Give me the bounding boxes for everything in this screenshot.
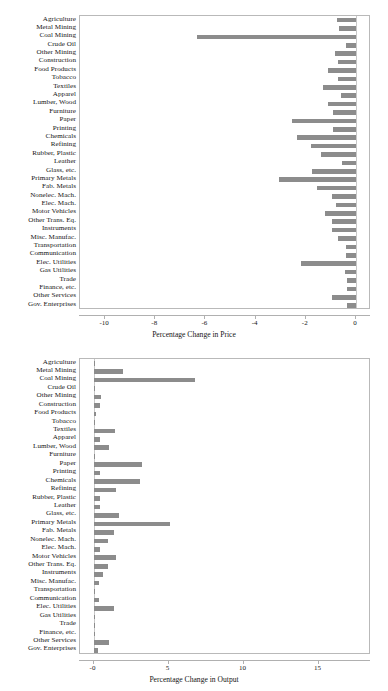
category-label: Primary Metals: [0, 174, 76, 182]
category-label: Other Trans. Eq.: [0, 216, 76, 224]
category-label: Finance, etc.: [0, 628, 76, 636]
category-label: Glass, etc.: [0, 166, 76, 174]
category-label: Coal Mining: [0, 31, 76, 39]
bar: [94, 412, 96, 417]
category-label: Rubber, Plastic: [0, 149, 76, 157]
bar: [338, 60, 356, 65]
category-label: Construction: [0, 56, 76, 64]
category-label: Other Mining: [0, 48, 76, 56]
category-label: Refining: [0, 484, 76, 492]
bar: [292, 119, 356, 124]
category-label: Gov. Enterprises: [0, 644, 76, 652]
category-label: Gas Utilities: [0, 266, 76, 274]
bar: [94, 530, 114, 535]
category-label: Elec. Utilities: [0, 602, 76, 610]
bar: [333, 110, 356, 115]
category-label: Trade: [0, 275, 76, 283]
bar: [94, 395, 102, 400]
category-label: Paper: [0, 115, 76, 123]
category-label: Instruments: [0, 224, 76, 232]
category-label: Other Services: [0, 636, 76, 644]
category-label: Transportation: [0, 241, 76, 249]
bar: [279, 177, 356, 182]
category-label: Food Products: [0, 65, 76, 73]
category-label: Printing: [0, 467, 76, 475]
category-label: Lumber, Wood: [0, 442, 76, 450]
bar: [332, 194, 356, 199]
bar: [94, 445, 109, 450]
bar: [336, 203, 356, 208]
bar: [94, 496, 101, 501]
price-plot-area: [79, 15, 370, 309]
bar: [94, 547, 101, 552]
bar: [94, 555, 117, 560]
category-label: Finance, etc.: [0, 283, 76, 291]
bar: [338, 236, 356, 241]
bar: [332, 228, 356, 233]
category-label: Furniture: [0, 107, 76, 115]
bar: [94, 632, 96, 637]
category-label: Motor Vehicles: [0, 552, 76, 560]
bar: [94, 598, 99, 603]
x-tick-label: 5: [153, 665, 183, 672]
bar: [328, 68, 356, 73]
x-tick-label: 15: [303, 665, 333, 672]
category-label: Construction: [0, 400, 76, 408]
bar: [94, 615, 95, 620]
bar: [339, 26, 356, 31]
bar: [338, 77, 356, 82]
bar: [94, 479, 141, 484]
x-tick-label: -8: [139, 320, 169, 327]
output-plot-area: [79, 358, 370, 654]
category-label: Crude Oil: [0, 383, 76, 391]
category-label: Nonelec. Mach.: [0, 535, 76, 543]
category-label: Leather: [0, 501, 76, 509]
category-label: Metal Mining: [0, 366, 76, 374]
category-label: Trade: [0, 619, 76, 627]
bar: [94, 623, 95, 628]
category-label: Primary Metals: [0, 518, 76, 526]
bar: [347, 303, 356, 308]
category-label: Fab. Metals: [0, 526, 76, 534]
category-label: Agriculture: [0, 358, 76, 366]
category-label: Communication: [0, 594, 76, 602]
category-label: Elec. Mach.: [0, 543, 76, 551]
bar: [94, 369, 123, 374]
price-category-labels: AgricultureMetal MiningCoal MiningCrude …: [0, 15, 76, 309]
x-tick-label: 10: [228, 665, 258, 672]
bar: [94, 572, 104, 577]
bar: [94, 648, 98, 653]
bar: [94, 539, 108, 544]
category-label: Crude Oil: [0, 40, 76, 48]
bar: [335, 51, 356, 56]
x-tick-label: -4: [240, 320, 270, 327]
category-label: Chemicals: [0, 476, 76, 484]
category-label: Agriculture: [0, 15, 76, 23]
category-label: Paper: [0, 459, 76, 467]
bar: [312, 169, 356, 174]
category-label: Chemicals: [0, 132, 76, 140]
output-chart-figure: AgricultureMetal MiningCoal MiningCrude …: [0, 348, 388, 691]
bar: [94, 488, 117, 493]
bar: [94, 505, 100, 510]
bar: [197, 35, 356, 40]
bar: [325, 211, 356, 216]
bar: [346, 253, 356, 258]
category-label: Glass, etc.: [0, 509, 76, 517]
category-label: Refining: [0, 140, 76, 148]
bar: [94, 471, 101, 476]
bar: [94, 581, 99, 586]
bar: [94, 361, 95, 366]
category-label: Gov. Enterprises: [0, 300, 76, 308]
category-label: Nonelec. Mach.: [0, 191, 76, 199]
bar: [94, 640, 109, 645]
bar: [94, 386, 95, 391]
category-label: Printing: [0, 124, 76, 132]
bar: [342, 161, 356, 166]
category-label: Fab. Metals: [0, 182, 76, 190]
category-label: Apparel: [0, 433, 76, 441]
price-zero-line: [356, 16, 357, 308]
category-label: Textiles: [0, 425, 76, 433]
bar: [94, 513, 120, 518]
bar: [337, 18, 356, 23]
